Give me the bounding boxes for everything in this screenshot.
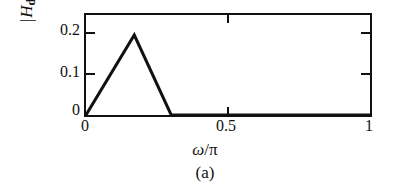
x-tick-label-0: 0 [76,117,94,135]
y-axis-label-symbol: H [17,5,36,17]
y-axis-label-subscript: d [24,0,38,5]
y-axis-label-bar-open: | [17,18,36,23]
right-axis-ticks [361,33,370,74]
x-axis-label-pi: π [209,140,218,159]
plot-area [84,13,372,117]
x-axis-label-omega: ω [192,140,204,159]
y-axis-ticks [86,33,95,74]
data-series-line [86,35,370,115]
figure-panel: |Hd(ω)| 0.2 0.1 0 0 0.5 1 [0,0,410,192]
plot-svg [86,15,370,115]
y-tick-label-0.1: 0.1 [38,63,80,81]
y-tick-label-0: 0 [38,101,80,119]
figure-caption: (a) [0,163,410,183]
y-tick-label-0.2: 0.2 [38,21,80,39]
x-tick-label-1: 1 [360,117,378,135]
y-axis-label: |Hd(ω)| [14,0,40,44]
x-axis-label: ω/π [0,140,410,160]
x-tick-label-0.5: 0.5 [206,117,246,135]
